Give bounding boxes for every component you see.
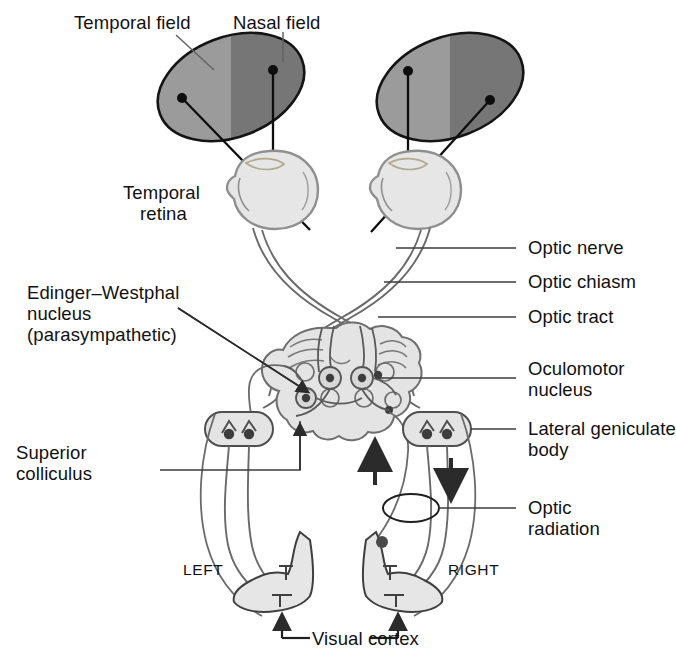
left-visual-field-ellipse [140,13,331,161]
label-visual-cortex: Visual cortex [312,628,419,649]
label-edinger-westphal-1: Edinger–Westphal [27,282,179,303]
label-side-left: LEFT [183,559,223,580]
label-superior-colliculus-2: colliculus [16,463,92,484]
label-edinger-westphal-3: (parasympathetic) [27,324,177,345]
label-oculomotor-nucleus-1: Oculomotor [528,358,625,379]
right-visual-cortex [363,532,442,612]
midbrain [262,322,422,440]
edinger-westphal-nucleus [296,388,316,408]
label-optic-tract: Optic tract [528,306,613,327]
label-optic-chiasm: Optic chiasm [528,271,636,292]
right-lateral-geniculate-body [403,412,471,446]
label-nasal-field: Nasal field [233,12,320,33]
left-visual-cortex [234,532,313,612]
label-lateral-geniculate-2: body [528,439,569,460]
label-optic-radiation-1: Optic [528,497,572,518]
label-temporal-field: Temporal field [74,12,191,33]
label-side-right: RIGHT [448,559,499,580]
label-optic-radiation-2: radiation [528,518,600,539]
label-temporal-retina-1: Temporal [123,182,200,203]
left-lateral-geniculate-body [205,412,273,446]
label-lateral-geniculate-1: Lateral geniculate [528,418,676,439]
label-optic-nerve: Optic nerve [528,237,624,258]
label-oculomotor-nucleus-2: nucleus [528,379,592,400]
label-edinger-westphal-2: nucleus [27,303,91,324]
label-superior-colliculus-1: Superior [16,442,87,463]
cortex-relay-dot [376,536,388,548]
left-eyeball [227,151,318,229]
label-temporal-retina-2: retina [140,203,187,224]
